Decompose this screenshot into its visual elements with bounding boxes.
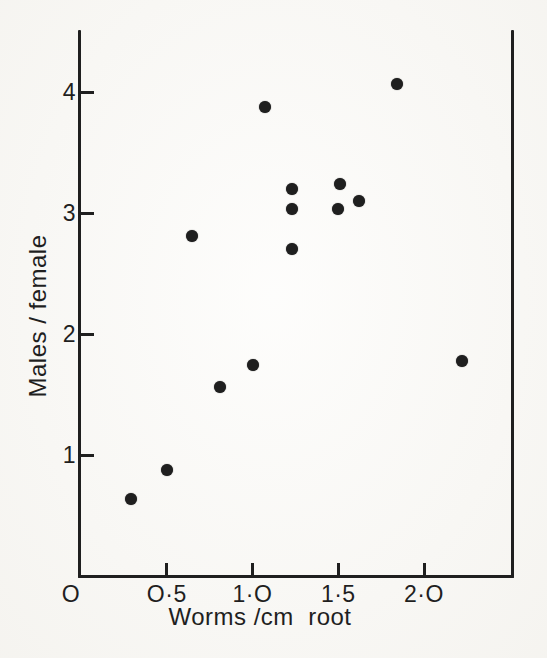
y-axis-line (78, 30, 81, 578)
data-point (247, 359, 259, 371)
scatter-figure: O·51·O1·52·O1234 O Worms /cm root Males … (0, 0, 547, 658)
x-tick (423, 563, 426, 575)
y-tick-label: 4 (28, 79, 76, 105)
y-tick (81, 91, 94, 94)
data-point (286, 183, 298, 195)
data-point (125, 493, 137, 505)
data-point (259, 101, 271, 113)
right-border-line (511, 30, 514, 578)
data-point (353, 195, 365, 207)
data-point (161, 464, 173, 476)
data-point (332, 203, 344, 215)
data-point (214, 381, 226, 393)
x-axis-line (78, 575, 514, 578)
y-axis-title: Males / female (23, 156, 53, 476)
data-point (391, 78, 403, 90)
y-tick (81, 454, 94, 457)
data-point (186, 230, 198, 242)
data-point (456, 355, 468, 367)
x-axis-title: Worms /cm root (100, 603, 420, 631)
data-point (286, 243, 298, 255)
y-tick (81, 333, 94, 336)
y-tick (81, 212, 94, 215)
x-tick (251, 563, 254, 575)
x-tick (337, 563, 340, 575)
data-point (286, 203, 298, 215)
x-tick (165, 563, 168, 575)
origin-label: O (51, 581, 91, 607)
data-point (334, 178, 346, 190)
